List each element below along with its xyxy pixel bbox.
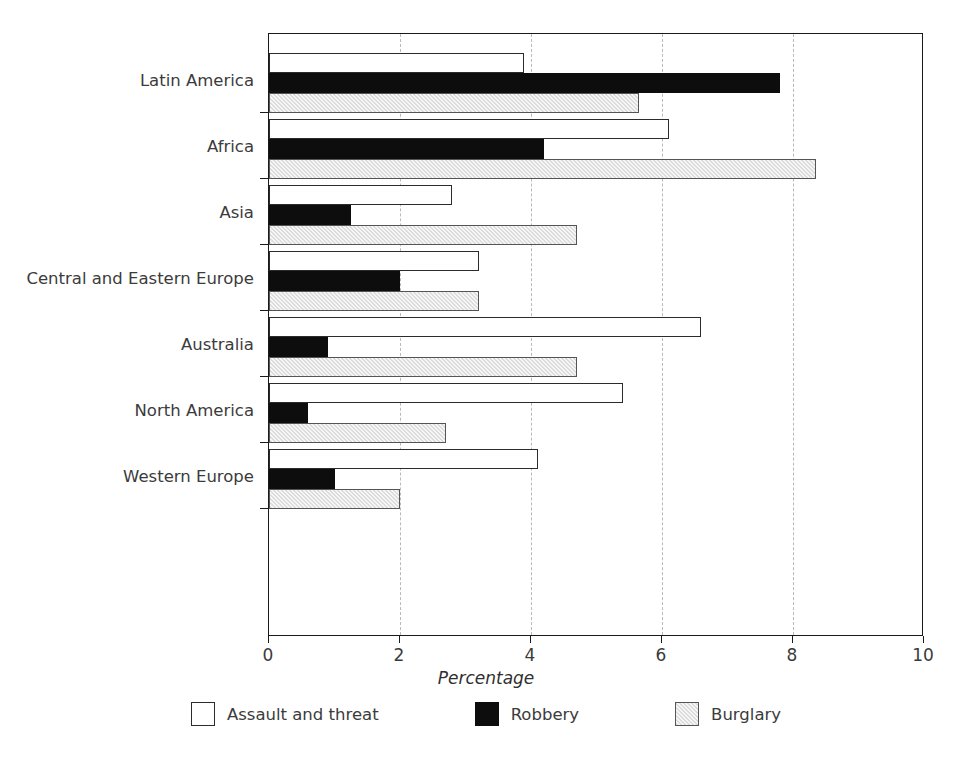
bar xyxy=(269,159,816,179)
x-tick-label: 2 xyxy=(394,645,405,665)
legend-label: Assault and threat xyxy=(227,705,379,724)
bar xyxy=(269,185,452,205)
legend-label: Burglary xyxy=(711,705,781,724)
category-label: Latin America xyxy=(0,71,254,90)
category-label: Central and Eastern Europe xyxy=(0,269,254,288)
bar xyxy=(269,291,479,311)
bar xyxy=(269,469,335,489)
category-tick xyxy=(260,442,268,443)
category-tick xyxy=(260,244,268,245)
bar-group xyxy=(269,251,922,317)
x-tick-label: 4 xyxy=(525,645,536,665)
x-tick xyxy=(268,636,269,643)
x-tick-label: 8 xyxy=(787,645,798,665)
x-tick xyxy=(661,636,662,643)
bar xyxy=(269,139,544,159)
bar xyxy=(269,317,701,337)
bar-chart: Latin AmericaAfricaAsiaCentral and Easte… xyxy=(0,0,972,773)
bar-group xyxy=(269,383,922,449)
x-tick xyxy=(399,636,400,643)
x-tick xyxy=(792,636,793,643)
category-tick xyxy=(260,112,268,113)
legend: Assault and threatRobberyBurglary xyxy=(0,702,972,726)
category-label: Africa xyxy=(0,137,254,156)
bar xyxy=(269,423,446,443)
bar xyxy=(269,73,780,93)
x-tick-label: 10 xyxy=(912,645,934,665)
bar xyxy=(269,53,524,73)
category-tick xyxy=(260,508,268,509)
legend-swatch-icon xyxy=(475,702,499,726)
category-label: Australia xyxy=(0,335,254,354)
x-axis-title: Percentage xyxy=(0,668,972,688)
bar-group xyxy=(269,185,922,251)
category-label: Western Europe xyxy=(0,467,254,486)
x-tick-label: 6 xyxy=(656,645,667,665)
category-tick xyxy=(260,310,268,311)
legend-label: Robbery xyxy=(511,705,579,724)
category-label: North America xyxy=(0,401,254,420)
x-tick xyxy=(923,636,924,643)
bar xyxy=(269,93,639,113)
category-tick xyxy=(260,376,268,377)
category-tick xyxy=(260,178,268,179)
plot-area xyxy=(268,33,923,636)
bar-group xyxy=(269,53,922,119)
bar xyxy=(269,383,623,403)
legend-item[interactable]: Robbery xyxy=(475,702,579,726)
bar xyxy=(269,205,351,225)
bar xyxy=(269,403,308,423)
bar xyxy=(269,251,479,271)
x-tick-label: 0 xyxy=(263,645,274,665)
bar-group xyxy=(269,317,922,383)
bar xyxy=(269,337,328,357)
bar xyxy=(269,119,669,139)
x-tick xyxy=(530,636,531,643)
bar xyxy=(269,271,400,291)
legend-item[interactable]: Assault and threat xyxy=(191,702,379,726)
legend-swatch-icon xyxy=(191,702,215,726)
legend-swatch-icon xyxy=(675,702,699,726)
bar xyxy=(269,357,577,377)
bar-group xyxy=(269,119,922,185)
bar-group xyxy=(269,449,922,515)
bar xyxy=(269,489,400,509)
legend-item[interactable]: Burglary xyxy=(675,702,781,726)
bar xyxy=(269,225,577,245)
bar xyxy=(269,449,538,469)
category-label: Asia xyxy=(0,203,254,222)
